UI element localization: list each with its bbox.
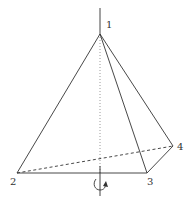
pyramid-diagram: 1 2 3 4 xyxy=(0,0,195,203)
vertex-label-3: 3 xyxy=(147,176,153,187)
vertex-label-1: 1 xyxy=(106,19,112,30)
vertex-label-2: 2 xyxy=(10,176,16,187)
rotation-arrow-icon xyxy=(94,179,108,190)
edge-1-3 xyxy=(100,34,147,173)
edge-3-4 xyxy=(147,146,173,173)
hidden-edge-2-4 xyxy=(17,146,173,173)
vertex-label-4: 4 xyxy=(177,141,183,152)
edge-1-2 xyxy=(17,34,100,173)
edge-1-4 xyxy=(100,34,173,146)
